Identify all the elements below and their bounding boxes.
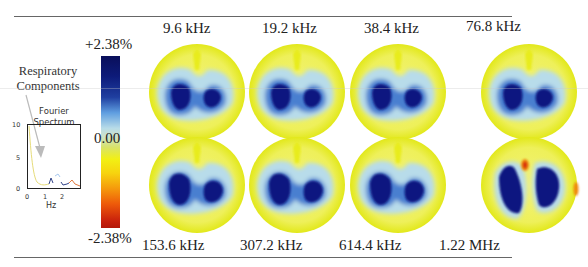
eit-image-9.6khz: [145, 40, 249, 144]
scan-artifact-line: [0, 88, 588, 89]
eit-image-76.8khz: [477, 40, 581, 144]
spectrum-xtick-2: 2: [60, 193, 64, 201]
eit-image-153.6khz: [145, 133, 249, 237]
spectrum-curves: [27, 124, 81, 189]
freq-label-9.6khz: 9.6 kHz: [163, 20, 211, 37]
colorbar-min-label: -2.38%: [88, 230, 132, 247]
freq-label-38.4khz: 38.4 kHz: [364, 20, 419, 37]
spectrum-title-line1: Fourier: [22, 106, 86, 117]
eit-image-1.22mhz: [477, 133, 581, 237]
spectrum-xtick-1: 1: [43, 193, 47, 201]
freq-label-76.8khz: 76.8 kHz: [466, 18, 521, 35]
eit-image-19.2khz: [245, 40, 349, 144]
freq-label-614.4khz: 614.4 kHz: [339, 237, 402, 254]
freq-label-153.6khz: 153.6 kHz: [142, 237, 205, 254]
freq-label-19.2khz: 19.2 kHz: [262, 20, 317, 37]
spectrum-ytick-5: 5: [16, 154, 20, 162]
spectrum-ytick-0: 0: [16, 185, 20, 193]
spectrum-xlabel: Hz: [46, 201, 56, 210]
freq-label-1.22mhz: 1.22 MHz: [439, 237, 500, 254]
spectrum-xtick-0: 0: [25, 193, 29, 201]
eit-image-614.4khz: [346, 133, 450, 237]
eit-image-38.4khz: [346, 40, 450, 144]
spectrum-ytick-10: 10: [12, 121, 20, 129]
bottom-rule: [14, 257, 512, 258]
eit-image-307.2khz: [245, 133, 349, 237]
freq-label-307.2khz: 307.2 kHz: [240, 237, 303, 254]
